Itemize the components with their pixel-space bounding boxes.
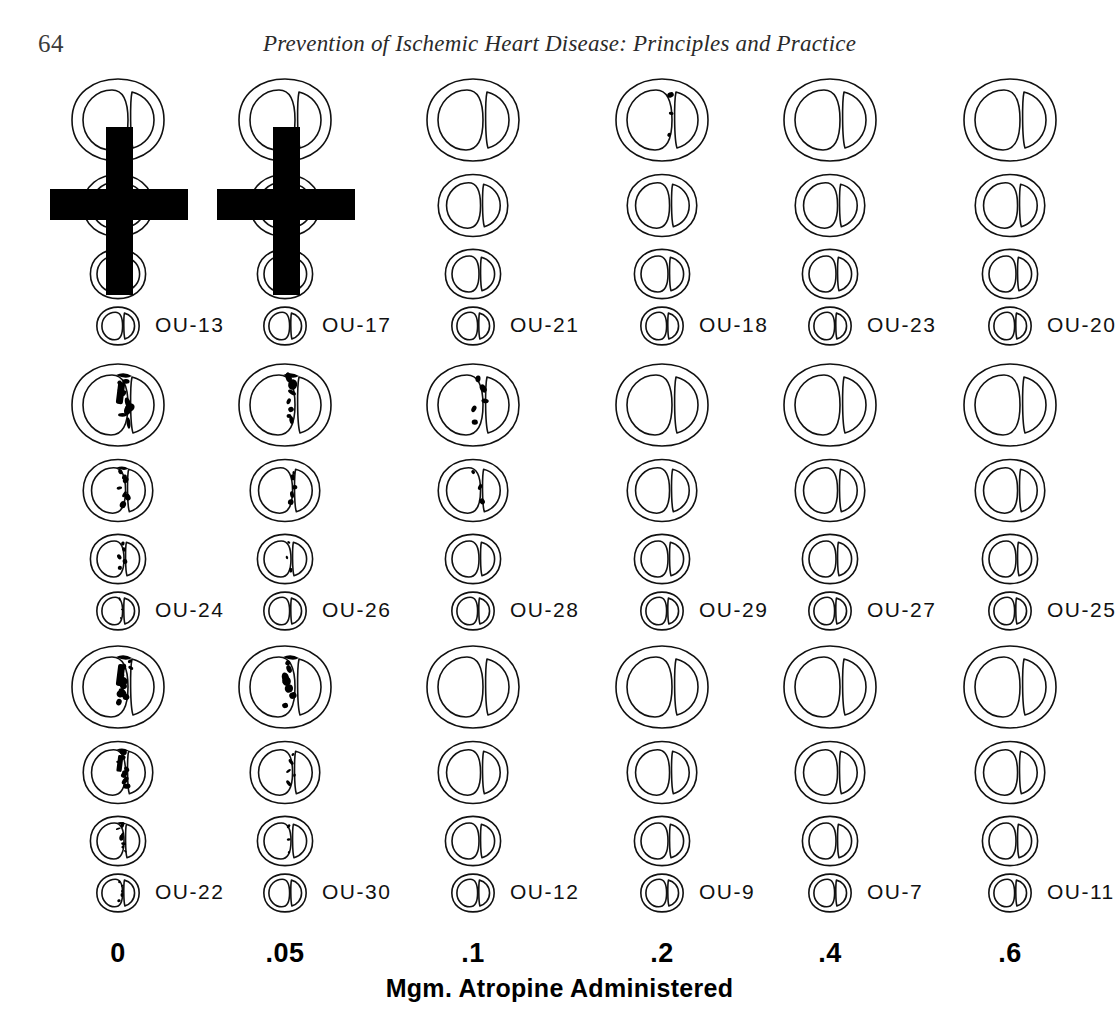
heart-section xyxy=(792,458,868,523)
heart-section xyxy=(632,248,692,300)
heart-section xyxy=(450,306,496,346)
case-label: OU-25 xyxy=(1047,598,1116,622)
case-label: OU-28 xyxy=(510,598,579,622)
heart-section xyxy=(262,591,308,631)
case-label: OU-23 xyxy=(867,313,936,337)
case-label: OU-21 xyxy=(510,313,579,337)
heart-section xyxy=(987,591,1033,631)
heart-section xyxy=(88,815,148,867)
case-label: OU-13 xyxy=(155,313,224,337)
heart-section xyxy=(262,873,308,913)
heart-section xyxy=(95,591,141,631)
heart-section xyxy=(807,873,853,913)
heart-section xyxy=(423,77,523,163)
heart-section xyxy=(443,533,503,585)
cross-horizontal-bar xyxy=(217,189,355,220)
heart-section xyxy=(235,362,335,448)
heart-section xyxy=(780,644,880,730)
heart-section xyxy=(980,533,1040,585)
heart-section xyxy=(247,740,323,805)
running-head: 64 Prevention of Ischemic Heart Disease:… xyxy=(0,30,1119,64)
dose-tick-label: .1 xyxy=(413,938,533,969)
case-label: OU-29 xyxy=(699,598,768,622)
case-label: OU-22 xyxy=(155,880,224,904)
heart-section xyxy=(792,740,868,805)
heart-section xyxy=(88,533,148,585)
heart-section xyxy=(262,306,308,346)
heart-section xyxy=(960,362,1060,448)
heart-section xyxy=(80,740,156,805)
heart-section xyxy=(247,458,323,523)
heart-section xyxy=(443,248,503,300)
heart-section xyxy=(800,533,860,585)
dose-tick-label: .6 xyxy=(950,938,1070,969)
dose-axis: 0.05.1.2.4.6 Mgm. Atropine Administered xyxy=(0,938,1119,1020)
heart-section xyxy=(68,644,168,730)
heart-section xyxy=(972,173,1048,238)
heart-section xyxy=(639,591,685,631)
heart-section xyxy=(423,644,523,730)
heart-section xyxy=(980,248,1040,300)
heart-section xyxy=(972,458,1048,523)
heart-section xyxy=(255,815,315,867)
heart-section xyxy=(423,362,523,448)
case-label: OU-30 xyxy=(322,880,391,904)
heart-section xyxy=(624,740,700,805)
running-title: Prevention of Ischemic Heart Disease: Pr… xyxy=(0,31,1119,57)
heart-section xyxy=(95,873,141,913)
heart-section xyxy=(435,458,511,523)
heart-section xyxy=(435,740,511,805)
heart-section xyxy=(450,591,496,631)
heart-section xyxy=(807,306,853,346)
case-label: OU-26 xyxy=(322,598,391,622)
heart-section xyxy=(624,458,700,523)
dose-tick-label: .05 xyxy=(225,938,345,969)
heart-section xyxy=(612,362,712,448)
heart-section xyxy=(807,591,853,631)
case-label: OU-17 xyxy=(322,313,391,337)
heart-section xyxy=(960,77,1060,163)
heart-section xyxy=(235,644,335,730)
heart-section xyxy=(960,644,1060,730)
dose-tick-label: 0 xyxy=(58,938,178,969)
heart-section xyxy=(612,644,712,730)
heart-section xyxy=(255,533,315,585)
specimen-plate: OU-13 OU-17 xyxy=(0,72,1119,937)
heart-section xyxy=(800,248,860,300)
heart-section xyxy=(95,306,141,346)
heart-section xyxy=(639,306,685,346)
heart-section xyxy=(632,815,692,867)
heart-section xyxy=(68,362,168,448)
case-label: OU-11 xyxy=(1047,880,1115,904)
heart-section xyxy=(987,873,1033,913)
heart-section xyxy=(987,306,1033,346)
case-label: OU-9 xyxy=(699,880,755,904)
dose-tick-label: .2 xyxy=(602,938,722,969)
axis-title: Mgm. Atropine Administered xyxy=(0,974,1119,1003)
heart-section xyxy=(780,362,880,448)
case-label: OU-7 xyxy=(867,880,923,904)
case-label: OU-12 xyxy=(510,880,579,904)
heart-section xyxy=(443,815,503,867)
cross-horizontal-bar xyxy=(50,189,188,220)
case-label: OU-20 xyxy=(1047,313,1116,337)
heart-section xyxy=(624,173,700,238)
heart-section xyxy=(80,458,156,523)
case-label: OU-27 xyxy=(867,598,936,622)
heart-section xyxy=(639,873,685,913)
heart-section xyxy=(780,77,880,163)
heart-section xyxy=(800,815,860,867)
heart-section xyxy=(450,873,496,913)
case-label: OU-24 xyxy=(155,598,224,622)
heart-section xyxy=(435,173,511,238)
heart-section xyxy=(972,740,1048,805)
case-label: OU-18 xyxy=(699,313,768,337)
heart-section xyxy=(632,533,692,585)
heart-section xyxy=(980,815,1040,867)
heart-section xyxy=(792,173,868,238)
heart-section xyxy=(612,77,712,163)
dose-tick-label: .4 xyxy=(770,938,890,969)
